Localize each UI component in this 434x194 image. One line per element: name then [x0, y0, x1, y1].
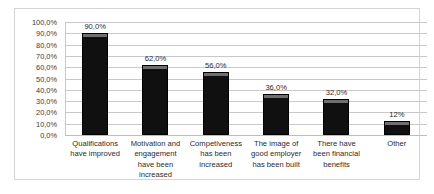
category-label-line: There have: [306, 139, 366, 149]
x-axis-category-label: Motivation andengagementhave beenincreas…: [125, 139, 185, 181]
category-label-line: has been built: [246, 160, 306, 170]
x-axis-category-label: Qualificationshave improved: [65, 139, 125, 160]
category-label-line: Competiveness: [186, 139, 246, 149]
x-axis-category-label: Competivenesshas beenincreased: [186, 139, 246, 170]
y-axis-tick-label: 90,0%: [36, 29, 57, 38]
bar-top-cap: [83, 34, 107, 37]
y-axis-tick-label: 20,0%: [36, 108, 57, 117]
y-axis-tick-label: 0,0%: [40, 131, 57, 140]
bar-value-label: 90,0%: [84, 22, 106, 31]
bar[interactable]: [384, 121, 410, 135]
y-axis-tick-label: 60,0%: [36, 63, 57, 72]
y-axis-tick-label: 70,0%: [36, 51, 57, 60]
category-label-line: increased: [125, 170, 185, 180]
bar-group: 56,0%: [186, 22, 246, 135]
bar[interactable]: [323, 99, 349, 135]
bar-group: 62,0%: [125, 22, 185, 135]
bar-group: 36,0%: [246, 22, 306, 135]
bar-value-label: 36,0%: [265, 83, 287, 92]
category-label-line: Other: [367, 139, 427, 149]
y-axis-tick-label: 10,0%: [36, 119, 57, 128]
y-axis: 0,0%10,0%20,0%30,0%40,0%50,0%60,0%70,0%8…: [15, 22, 61, 135]
x-axis-category-labels: Qualificationshave improvedMotivation an…: [65, 139, 427, 185]
category-label-line: Motivation and: [125, 139, 185, 149]
bar-top-cap: [204, 73, 228, 76]
category-label-line: engagement: [125, 149, 185, 159]
bar-group: 12%: [367, 22, 427, 135]
category-label-line: The image of: [246, 139, 306, 149]
category-label-line: benefits: [306, 160, 366, 170]
category-label-line: has been: [186, 149, 246, 159]
y-axis-tick-label: 100,0%: [32, 18, 57, 27]
bar[interactable]: [142, 65, 168, 135]
bar-top-cap: [324, 100, 348, 103]
category-label-line: Qualifications: [65, 139, 125, 149]
y-axis-tick-label: 80,0%: [36, 40, 57, 49]
x-axis-category-label: The image ofgood employerhas been built: [246, 139, 306, 170]
x-axis-category-label: Other: [367, 139, 427, 149]
plot-area: 90,0%62,0%56,0%36,0%32,0%12%: [65, 22, 427, 135]
bar-top-cap: [385, 122, 409, 125]
y-axis-tick-label: 40,0%: [36, 85, 57, 94]
bar-value-label: 12%: [389, 110, 404, 119]
gridline: [65, 135, 427, 136]
x-axis-category-label: There havebeen financialbenefits: [306, 139, 366, 170]
y-axis-tick-label: 50,0%: [36, 74, 57, 83]
bar-group: 32,0%: [306, 22, 366, 135]
category-label-line: have improved: [65, 149, 125, 159]
category-label-line: good employer: [246, 149, 306, 159]
bar-value-label: 32,0%: [326, 88, 348, 97]
bar-top-cap: [264, 95, 288, 98]
bar[interactable]: [82, 33, 108, 135]
bar-group: 90,0%: [65, 22, 125, 135]
category-label-line: been financial: [306, 149, 366, 159]
bar-chart-figure: 0,0%10,0%20,0%30,0%40,0%50,0%60,0%70,0%8…: [0, 0, 434, 194]
bars-layer: 90,0%62,0%56,0%36,0%32,0%12%: [65, 22, 427, 135]
category-label-line: have been: [125, 160, 185, 170]
bar-value-label: 56,0%: [205, 61, 227, 70]
chart-frame: 0,0%10,0%20,0%30,0%40,0%50,0%60,0%70,0%8…: [14, 8, 420, 180]
bar-value-label: 62,0%: [145, 54, 167, 63]
y-axis-tick-label: 30,0%: [36, 97, 57, 106]
bar[interactable]: [263, 94, 289, 135]
category-label-line: increased: [186, 160, 246, 170]
bar[interactable]: [203, 72, 229, 135]
bar-top-cap: [143, 66, 167, 69]
